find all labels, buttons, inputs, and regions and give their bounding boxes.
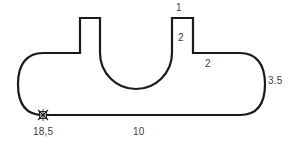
dimension-label-shoulder-depth: 2: [205, 59, 211, 69]
dimension-label-top-tab-width: 1: [176, 3, 182, 13]
dimension-label-datum: 18,5: [33, 127, 53, 137]
dimension-label-right-radius: 3.5: [268, 76, 283, 86]
dimension-label-tab-height: 2: [178, 33, 184, 43]
tank-outline-path: [18, 18, 265, 115]
datum-cross-marker: [37, 109, 49, 121]
dimension-label-bottom-length: 10: [133, 127, 145, 137]
